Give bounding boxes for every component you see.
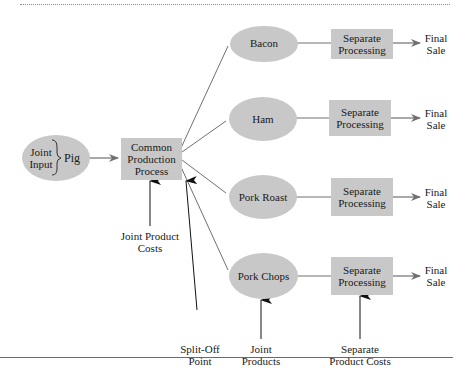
final-sale-label-pork-roast: Final Sale: [421, 186, 451, 210]
product-label-bacon: Bacon: [230, 37, 298, 49]
separate-processing-label-pork-chops: Separate Processing: [331, 264, 393, 288]
split-off-point-label: Split-Off Point: [175, 343, 225, 367]
separate-product-costs-label: Separate Product Costs: [320, 343, 400, 367]
product-label-pork-roast: Pork Roast: [229, 191, 297, 203]
pig-label: Pig: [62, 152, 82, 164]
final-sale-label-bacon: Final Sale: [421, 32, 451, 56]
product-label-ham: Ham: [229, 113, 297, 125]
separate-processing-label-pork-roast: Separate Processing: [331, 185, 393, 209]
final-sale-label-pork-chops: Final Sale: [421, 264, 451, 288]
joint-product-costs-label: Joint Product Costs: [110, 230, 190, 254]
joint-product-diagram: Joint Input Pig Common Production Proces…: [0, 0, 472, 391]
bottom-divider: [0, 357, 453, 358]
final-sale-label-ham: Final Sale: [421, 107, 451, 131]
joint-products-label: Joint Products: [236, 343, 286, 367]
product-label-pork-chops: Pork Chops: [229, 270, 298, 282]
separate-processing-label-ham: Separate Processing: [329, 106, 391, 130]
common-production-process-label: Common Production Process: [121, 141, 182, 177]
separate-processing-label-bacon: Separate Processing: [331, 32, 393, 56]
